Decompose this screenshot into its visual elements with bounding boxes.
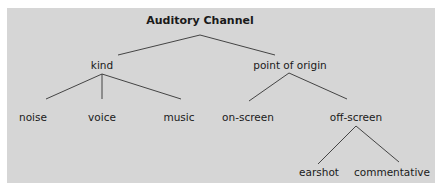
edge-origin-offscreen: [289, 73, 347, 99]
node-kind: kind: [91, 59, 113, 71]
edge-kind-music: [102, 74, 181, 99]
edge-origin-onscreen: [249, 73, 289, 101]
tree-edges: [0, 0, 440, 191]
edge-root-kind: [118, 35, 200, 55]
node-on-screen: on-screen: [222, 111, 274, 123]
edge-offscreen-commentative: [356, 126, 399, 162]
node-root: Auditory Channel: [146, 15, 253, 27]
node-voice: voice: [88, 111, 116, 123]
edge-kind-noise: [46, 74, 102, 99]
edge-root-origin: [200, 35, 275, 55]
node-noise: noise: [19, 111, 47, 123]
node-off-screen: off-screen: [330, 111, 382, 123]
node-earshot: earshot: [299, 166, 339, 178]
node-point-of-origin: point of origin: [253, 59, 326, 71]
node-music: music: [163, 111, 194, 123]
node-commentative: commentative: [354, 166, 430, 178]
edge-offscreen-earshot: [318, 126, 356, 164]
